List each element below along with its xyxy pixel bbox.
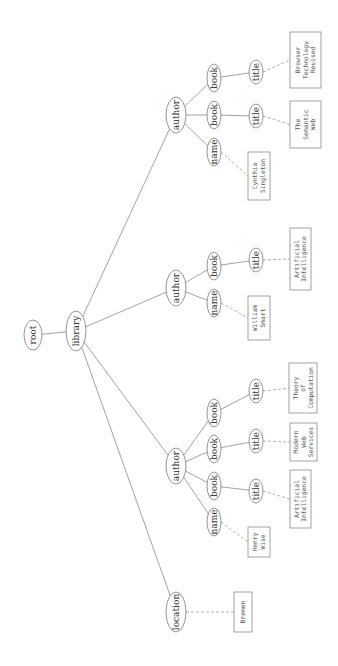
- tree-node-title: title: [249, 379, 263, 403]
- node-label: book: [209, 254, 219, 277]
- node-label: library: [71, 315, 81, 346]
- node-label: title: [251, 251, 261, 269]
- leaf-edge: [263, 388, 289, 391]
- tree-node-library: library: [66, 311, 86, 351]
- tree-node-book: book: [207, 472, 221, 500]
- leaf-label: ArtificialIntelligence: [293, 236, 309, 282]
- node-label: location: [171, 594, 181, 631]
- tree-node-location: location: [166, 592, 186, 632]
- node-label: name: [209, 290, 219, 315]
- leaf-edge: [263, 60, 290, 72]
- tree-node-book: book: [207, 252, 221, 280]
- tree-node-root: root: [24, 320, 42, 350]
- leaf-value-box: HenryWise: [248, 527, 270, 557]
- node-label: book: [209, 66, 219, 89]
- leaf-value-box: TheSemanticWeb: [290, 101, 321, 148]
- tree-edge: [76, 115, 176, 331]
- tree-edge: [76, 331, 176, 466]
- leaf-edge: [221, 152, 248, 176]
- leaf-value-box: TheoryofComputation: [289, 363, 317, 413]
- tree-node-title: title: [249, 60, 263, 84]
- tree-node-book: book: [207, 435, 221, 463]
- tree-node-author: author: [166, 270, 186, 306]
- node-label: title: [251, 432, 261, 450]
- leaf-edge: [263, 491, 290, 499]
- tree-node-title: title: [249, 104, 263, 128]
- tree-node-title: title: [249, 429, 263, 453]
- tree-node-name: name: [207, 138, 221, 166]
- leaf-value-box: ArtificialIntelligence: [290, 470, 311, 528]
- tree-diagram: rootlibraryauthorauthorauthorlocationboo…: [0, 0, 338, 666]
- leaf-edge: [221, 522, 248, 542]
- node-label: author: [171, 99, 181, 130]
- leaf-edge: [263, 441, 290, 442]
- leaf-label: CynthiaSingleton: [251, 159, 267, 193]
- leaf-value-box: WilliamSmart: [248, 296, 270, 340]
- leaf-label: Bremen: [239, 600, 246, 623]
- node-label: title: [251, 63, 261, 81]
- node-label: name: [209, 139, 219, 164]
- node-label: name: [209, 509, 219, 534]
- node-label: book: [209, 103, 219, 126]
- leaf-edge: [263, 116, 290, 125]
- tree-edge: [76, 331, 176, 612]
- tree-node-author: author: [166, 97, 186, 133]
- tree-node-author: author: [166, 448, 186, 484]
- leaf-label: HenryWise: [251, 532, 266, 551]
- tree-node-title: title: [249, 479, 263, 503]
- node-label: book: [209, 437, 219, 460]
- leaf-value-box: BrowserTechnologyRevised: [290, 32, 321, 88]
- leaf-value-box: ModernWebServices: [290, 423, 317, 461]
- node-label: book: [209, 401, 219, 424]
- tree-node-book: book: [207, 101, 221, 129]
- tree-node-name: name: [207, 508, 221, 536]
- leaf-value-box: CynthiaSingleton: [248, 152, 270, 200]
- node-layer: rootlibraryauthorauthorauthorlocationboo…: [24, 60, 263, 632]
- tree-node-book: book: [207, 64, 221, 92]
- node-label: book: [209, 474, 219, 497]
- leaf-label: ArtificialIntelligence: [293, 476, 309, 522]
- node-label: author: [171, 450, 181, 481]
- leaf-value-box: Bremen: [234, 592, 252, 632]
- tree-node-book: book: [207, 399, 221, 427]
- node-label: title: [251, 382, 261, 400]
- leaf-edge-layer: [186, 60, 290, 612]
- tree-edge: [76, 288, 176, 331]
- leaf-edge: [221, 303, 248, 318]
- node-label: title: [251, 107, 261, 125]
- node-label: author: [171, 272, 181, 303]
- node-label: title: [251, 482, 261, 500]
- node-label: root: [28, 325, 38, 344]
- tree-node-title: title: [249, 248, 263, 272]
- tree-node-name: name: [207, 289, 221, 317]
- leaf-value-box: ArtificialIntelligence: [290, 228, 311, 290]
- leaf-label: WilliamSmart: [251, 305, 266, 332]
- leaf-layer: BrowserTechnologyRevisedTheSemanticWebCy…: [234, 32, 321, 632]
- leaf-edge: [263, 259, 290, 260]
